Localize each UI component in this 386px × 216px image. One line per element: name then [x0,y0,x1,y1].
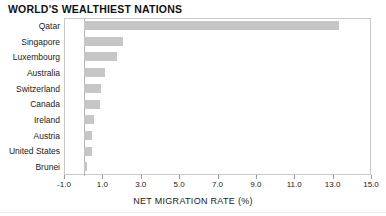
category-label: Brunei [0,162,60,172]
axis-tick-mark [179,175,180,179]
bar [84,68,105,77]
bar [84,147,92,156]
bottom-divider [0,212,386,213]
bar-row [64,18,371,34]
axis-tick-mark [64,175,65,179]
bar [84,162,87,171]
bar-row [64,34,371,50]
axis-tick-mark [141,175,142,179]
bar-row [64,144,371,160]
page-title: WORLD'S WEALTHIEST NATIONS [8,3,182,15]
category-label: Ireland [0,115,60,125]
axis-tick-label: 1.0 [97,180,108,189]
bar-row [64,128,371,144]
category-label: Canada [0,99,60,109]
axis-tick-label: 15.0 [363,180,379,189]
axis-tick-label: 11.0 [287,180,302,189]
axis-tick-mark [102,175,103,179]
chart-container: WORLD'S WEALTHIEST NATIONS QatarSingapor… [0,0,386,216]
category-label: Luxembourg [0,52,60,62]
category-label: Switzerland [0,84,60,94]
bars-layer [64,18,371,175]
bar [84,100,99,109]
axis-tick-mark [333,175,334,179]
bar-row [64,65,371,81]
category-label: Austria [0,131,60,141]
axis-tick-label: 3.0 [135,180,146,189]
bar-row [64,159,371,175]
bar-row [64,97,371,113]
axis-tick-label: 9.0 [250,180,261,189]
axis-tick-label: 5.0 [174,180,185,189]
bar-row [64,49,371,65]
axis-tick-mark [218,175,219,179]
bar [84,115,94,124]
axis-tick-mark [294,175,295,179]
bar [84,52,117,61]
category-axis-labels: QatarSingaporeLuxembourgAustraliaSwitzer… [0,18,60,175]
axis-tick-label: 13.0 [325,180,341,189]
axis-tick-label: 7.0 [212,180,223,189]
bar [84,37,122,46]
axis-tick-label: -1.0 [57,180,71,189]
bar [84,131,92,140]
bar-row [64,112,371,128]
x-axis-title: NET MIGRATION RATE (%) [0,196,386,206]
bar [84,84,101,93]
value-axis-ticks: -1.01.03.05.07.09.011.013.015.0 [64,175,371,195]
bar-row [64,81,371,97]
category-label: Qatar [0,21,60,31]
category-label: Singapore [0,37,60,47]
axis-tick-mark [256,175,257,179]
category-label: Australia [0,68,60,78]
category-label: United States [0,146,60,156]
bar [84,21,339,30]
axis-tick-mark [371,175,372,179]
